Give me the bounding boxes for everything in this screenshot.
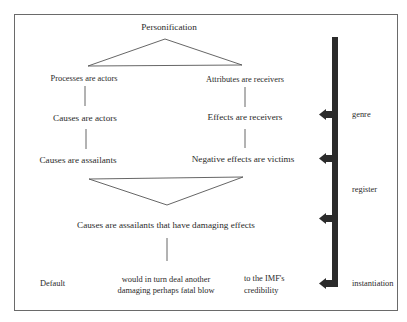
arrow-register-lower-icon bbox=[319, 213, 333, 224]
arrow-register-icon bbox=[319, 153, 333, 164]
instantiation-middle-line2: damaging perhaps fatal blow bbox=[118, 285, 215, 296]
right-node-3: Negative effects are victims bbox=[192, 154, 295, 165]
arrow-genre-icon bbox=[319, 109, 333, 120]
top-triangle bbox=[88, 39, 242, 66]
merged-node: Causes are assailants that have damaging… bbox=[77, 220, 255, 231]
level-label-instantiation: instantiation bbox=[352, 278, 393, 289]
left-node-2: Causes are actors bbox=[53, 113, 117, 124]
root-node: Personification bbox=[141, 22, 197, 33]
instantiation-right-line1: to the IMF's bbox=[244, 273, 285, 284]
instantiation-middle-line1: would in turn deal another bbox=[122, 274, 210, 285]
right-node-1: Attributes are receivers bbox=[206, 74, 284, 85]
right-node-2: Effects are receivers bbox=[208, 112, 283, 123]
left-node-1: Processes are actors bbox=[51, 73, 118, 84]
bottom-triangle bbox=[89, 177, 243, 205]
instantiation-right-line2: credibility bbox=[244, 285, 278, 296]
level-label-genre: genre bbox=[352, 109, 371, 120]
level-label-register: register bbox=[352, 184, 377, 195]
default-label: Default bbox=[40, 278, 65, 289]
left-node-3: Causes are assailants bbox=[39, 155, 116, 166]
